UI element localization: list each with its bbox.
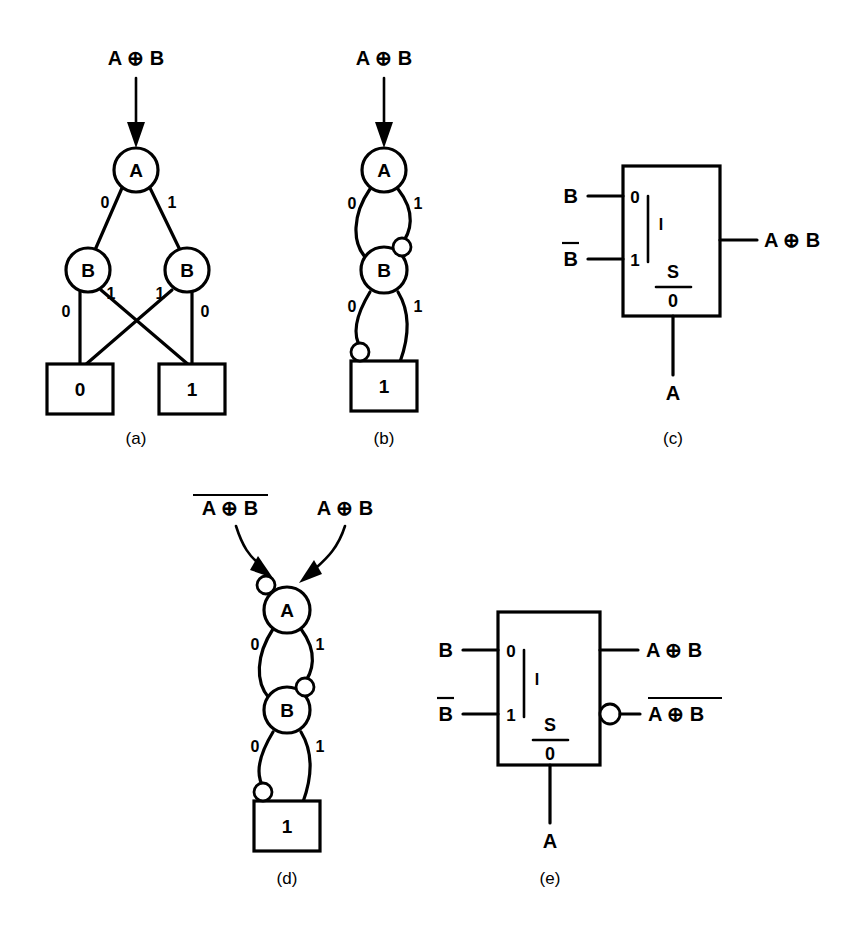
panel-a-terminal-0-label: 0 (75, 379, 86, 400)
panel-b-edge-b-1-label: 1 (414, 298, 423, 315)
panel-d-edge-b-0-label: 0 (251, 738, 260, 755)
panel-c-select-label: A (666, 382, 680, 404)
panel-d-edge-b-1-label: 1 (316, 738, 325, 755)
panel-c: B B 0 1 I S 0 A A ⊕ B (c) (562, 166, 820, 448)
panel-e-port-0-label: 0 (506, 642, 515, 661)
panel-b-input-label: A ⊕ B (356, 47, 412, 69)
panel-c-port-0-label: 0 (630, 188, 639, 207)
panel-d-edge-b-0 (259, 732, 273, 788)
panel-e-output-1-invert-bubble (600, 704, 620, 724)
panel-a-edge-bleft-1-label: 1 (107, 285, 116, 302)
panel-c-select-0-label: 0 (668, 291, 678, 311)
panel-c-input-1-label: B (564, 248, 578, 270)
panel-c-output-label: A ⊕ B (764, 229, 820, 251)
panel-d-edge-b-1 (301, 732, 310, 802)
panel-a-edge-bright-1-label: 1 (156, 285, 165, 302)
panel-c-select-s-label: S (667, 262, 679, 282)
panel-d-input-left-arrow-shaft (236, 526, 258, 563)
panel-a-input-arrow-head (127, 122, 145, 148)
panel-b-complement-bubble-lower (351, 343, 369, 361)
panel-d-edge-root-1-label: 1 (316, 636, 325, 653)
panel-d-input-right-arrow-shaft (316, 526, 345, 568)
panel-a-node-a-label: A (129, 160, 143, 181)
panel-a-node-b-left-label: B (81, 260, 95, 281)
panel-d-node-b-label: B (280, 700, 294, 721)
panel-b-edge-root-1-label: 1 (414, 195, 423, 212)
panel-a-edge-bright-0-label: 0 (201, 303, 210, 320)
panel-d-input-right-label: A ⊕ B (317, 497, 373, 519)
panel-c-mux-marker-i: I (659, 216, 663, 233)
panel-e-input-0-label: B (439, 639, 453, 661)
panel-e: B B 0 1 I S 0 A A ⊕ B A ⊕ B (e) (437, 612, 722, 888)
panel-a-caption: (a) (126, 429, 147, 448)
panel-b-caption: (b) (374, 429, 395, 448)
panel-e-input-1-label: B (439, 703, 453, 725)
panel-d-input-left-label: A ⊕ B (202, 497, 258, 519)
panel-d-edge-root-0-label: 0 (251, 636, 260, 653)
panel-b: A ⊕ B 0 1 0 1 1 A B (b) (348, 47, 423, 448)
panel-c-caption: (c) (663, 429, 683, 448)
panel-d-caption: (d) (277, 869, 298, 888)
panel-b-complement-bubble-upper (393, 238, 411, 256)
panel-b-edge-root-0-label: 0 (348, 195, 357, 212)
panel-c-input-0-label: B (564, 185, 578, 207)
panel-e-output-0-label: A ⊕ B (646, 639, 702, 661)
panel-d-complement-bubble-lower (254, 783, 272, 801)
panel-d: A ⊕ B A ⊕ B 0 1 0 1 1 A B (d) (193, 495, 373, 888)
figure-root: A ⊕ B 0 1 0 1 0 1 0 1 A B B (a) A ⊕ B (0, 0, 861, 934)
panel-b-edge-root-0 (356, 189, 370, 258)
panel-e-port-1-label: 1 (506, 706, 515, 725)
panel-b-edge-b-0 (356, 292, 370, 348)
panel-a: A ⊕ B 0 1 0 1 0 1 0 1 A B B (a) (47, 47, 225, 448)
panel-a-node-b-right-label: B (180, 260, 194, 281)
panel-e-select-label: A (543, 830, 557, 852)
panel-e-mux-marker-i: I (535, 671, 539, 688)
panel-d-edge-root-0 (259, 629, 273, 698)
panel-a-edge-bleft-0-label: 0 (62, 303, 71, 320)
figure-canvas: A ⊕ B 0 1 0 1 0 1 0 1 A B B (a) A ⊕ B (0, 0, 861, 934)
panel-e-mux-body (498, 612, 600, 765)
panel-d-terminal-1-label: 1 (282, 816, 293, 837)
panel-b-terminal-1-label: 1 (379, 376, 390, 397)
panel-e-output-1-label: A ⊕ B (648, 703, 704, 725)
panel-c-port-1-label: 1 (630, 251, 639, 270)
panel-b-edge-b-1 (398, 292, 407, 362)
panel-a-input-label: A ⊕ B (108, 47, 164, 69)
panel-a-edge-root-0-label: 0 (101, 194, 110, 211)
panel-d-complement-bubble-input (257, 576, 275, 594)
panel-e-select-0-label: 0 (545, 744, 555, 764)
panel-b-edge-b-0-label: 0 (348, 298, 357, 315)
panel-b-node-a-label: A (377, 160, 391, 181)
panel-b-node-b-label: B (377, 260, 391, 281)
panel-b-input-arrow-head (375, 122, 393, 148)
panel-d-complement-bubble-upper (296, 678, 314, 696)
panel-a-edge-root-1-label: 1 (168, 194, 177, 211)
panel-e-select-s-label: S (544, 715, 556, 735)
panel-d-input-right-arrow-head (299, 560, 322, 583)
panel-e-caption: (e) (540, 869, 561, 888)
panel-d-node-a-label: A (280, 600, 294, 621)
panel-a-terminal-1-label: 1 (187, 379, 198, 400)
